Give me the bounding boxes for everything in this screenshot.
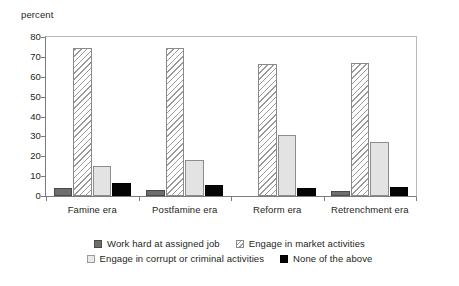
bar (390, 187, 409, 196)
y-axis-tick-mark (41, 77, 45, 78)
x-axis-tick-mark (324, 197, 325, 201)
legend-row: Work hard at assigned jobEngage in marke… (0, 236, 459, 251)
y-axis-tick-label: 20 (19, 151, 41, 161)
bar (370, 142, 389, 196)
x-axis-tick-mark (139, 197, 140, 201)
legend-item: Work hard at assigned job (94, 238, 220, 249)
legend-swatch-icon (236, 240, 244, 248)
bar-group (324, 37, 417, 196)
legend-item: None of the above (280, 253, 372, 264)
y-axis-tick-label: 70 (19, 52, 41, 62)
y-axis-tick-mark (41, 37, 45, 38)
y-axis-tick-mark (41, 117, 45, 118)
x-axis-category-label: Reform era (231, 204, 324, 216)
y-axis-tick-mark (41, 136, 45, 137)
bar-group (139, 37, 232, 196)
x-axis-category-label: Postfamine era (139, 204, 232, 216)
bar (93, 166, 112, 196)
x-axis-tick-mark (416, 197, 417, 201)
bar (351, 63, 370, 196)
chart-legend: Work hard at assigned jobEngage in marke… (0, 236, 459, 266)
bar-group (231, 37, 324, 196)
x-axis-tick-mark (231, 197, 232, 201)
bar (258, 64, 277, 196)
y-axis-tick-label: 10 (19, 171, 41, 181)
x-axis-category-label: Retrenchment era (324, 204, 417, 216)
plot-area (46, 37, 416, 196)
legend-swatch-icon (87, 255, 95, 263)
bar (331, 191, 350, 196)
x-axis-category-label: Famine era (46, 204, 139, 216)
legend-label: Engage in corrupt or criminal activities (100, 253, 265, 264)
y-axis-tick-mark (41, 196, 45, 197)
legend-label: None of the above (293, 253, 372, 264)
bar (297, 188, 316, 196)
bar-chart-figure: percent 01020304050607080 Famine eraPost… (0, 0, 459, 286)
legend-swatch-icon (94, 240, 102, 248)
y-axis-tick-mark (41, 156, 45, 157)
bar (205, 185, 224, 196)
bar (166, 48, 185, 196)
bar (73, 48, 92, 196)
bar (146, 190, 165, 196)
legend-label: Work hard at assigned job (107, 238, 220, 249)
legend-item: Engage in market activities (236, 238, 365, 249)
legend-item: Engage in corrupt or criminal activities (87, 253, 265, 264)
legend-row: Engage in corrupt or criminal activities… (0, 251, 459, 266)
bar (278, 135, 297, 196)
y-axis-tick-label: 40 (19, 112, 41, 122)
y-axis-tick-label: 50 (19, 92, 41, 102)
bar (185, 160, 204, 196)
y-axis-tick-mark (41, 176, 45, 177)
y-axis-tick-mark (41, 97, 45, 98)
bar (54, 188, 73, 196)
y-axis-tick-label: 80 (19, 32, 41, 42)
y-axis-tick-label: 0 (19, 191, 41, 201)
legend-label: Engage in market activities (249, 238, 365, 249)
y-axis-tick-label: 30 (19, 131, 41, 141)
y-axis-tick-label: 60 (19, 72, 41, 82)
y-axis-tick-mark (41, 57, 45, 58)
y-axis-title: percent (21, 9, 53, 20)
x-axis-tick-mark (46, 197, 47, 201)
bar (112, 183, 131, 196)
bar-group (46, 37, 139, 196)
legend-swatch-icon (280, 255, 288, 263)
